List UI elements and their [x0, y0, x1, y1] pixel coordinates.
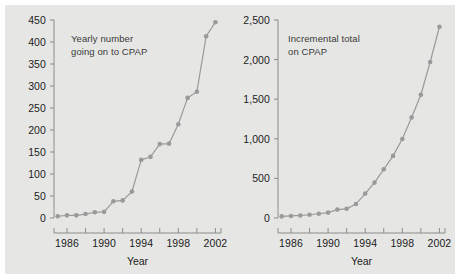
y-tick-label: 450 [5, 14, 46, 26]
x-tick-label: 1998 [166, 237, 190, 249]
y-tick-label: 150 [5, 146, 46, 158]
x-tick-label: 1994 [129, 237, 153, 249]
x-tick-label: 2002 [204, 237, 228, 249]
y-tick-label: 100 [5, 168, 46, 180]
chart-incremental-total: Incremental total on CPAP 05001,0001,500… [230, 5, 455, 274]
chart-yearly-number: Yearly number going on to CPAP 050100150… [5, 5, 230, 274]
x-tick-label: 1990 [92, 237, 116, 249]
y-tick-label: 300 [5, 80, 46, 92]
y-tick-label: 350 [5, 58, 46, 70]
y-tick-label: 250 [5, 102, 46, 114]
y-tick-label: 400 [5, 36, 46, 48]
y-tick-label: 2,000 [230, 54, 270, 66]
x-tick-label: 1990 [316, 237, 340, 249]
y-tick-label: 1,000 [230, 133, 270, 145]
y-tick-label: 50 [5, 190, 46, 202]
x-axis-title-left: Year [127, 255, 148, 267]
y-tick-label: 500 [230, 172, 270, 184]
y-tick-label: 200 [5, 124, 46, 136]
y-tick-label: 0 [230, 212, 270, 224]
x-tick-label: 1998 [390, 237, 414, 249]
chart-title-right: Incremental total on CPAP [288, 33, 360, 58]
x-tick-label: 1986 [279, 237, 303, 249]
chart-title-left: Yearly number going on to CPAP [71, 33, 147, 58]
x-tick-label: 2002 [428, 237, 452, 249]
x-axis-title-right: Year [351, 255, 372, 267]
y-tick-label: 1,500 [230, 93, 270, 105]
y-tick-label: 0 [5, 212, 46, 224]
x-tick-label: 1994 [353, 237, 377, 249]
x-tick-label: 1986 [55, 237, 79, 249]
y-tick-label: 2,500 [230, 14, 270, 26]
figure-panel: Yearly number going on to CPAP 050100150… [5, 5, 455, 274]
